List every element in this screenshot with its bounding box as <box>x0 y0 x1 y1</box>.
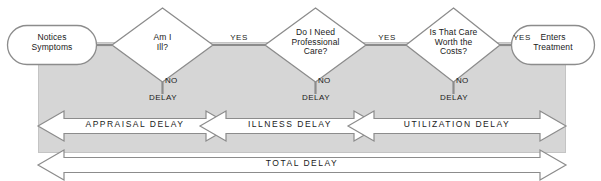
terminator-notices-symptoms <box>8 26 97 65</box>
delay-arrow-total <box>38 150 566 180</box>
delay-model-diagram: Notices Symptoms Enters Treatment Am I I… <box>0 0 601 181</box>
diagram-canvas <box>0 0 601 181</box>
terminator-enters-treatment <box>512 26 595 65</box>
